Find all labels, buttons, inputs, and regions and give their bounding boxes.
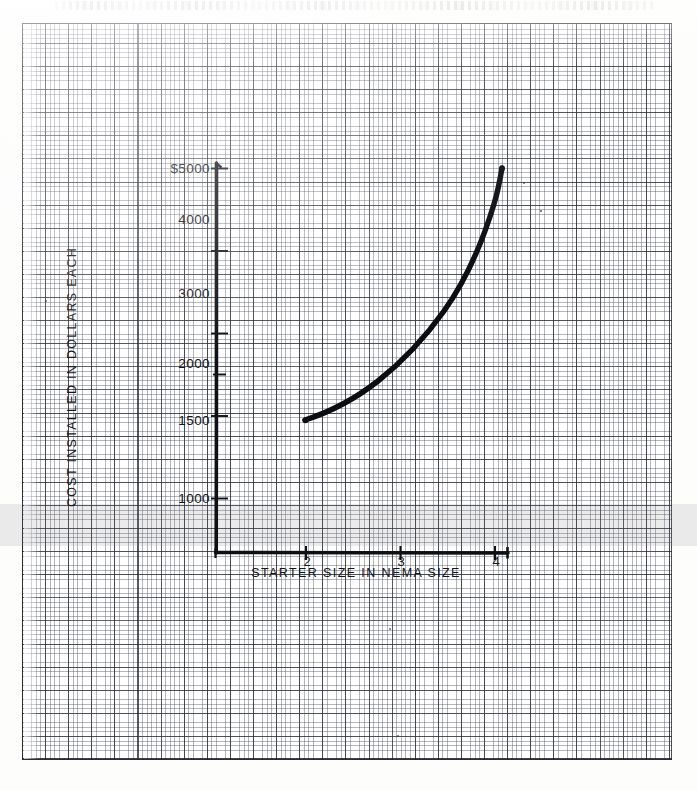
y-tick-label-1000: 1000 bbox=[126, 491, 210, 506]
cost-curve bbox=[305, 168, 502, 420]
chart-plot: $5000 4000 3000 2000 1500 1000 2 3 4 COS… bbox=[0, 0, 697, 791]
x-tick-label-4: 4 bbox=[492, 554, 499, 569]
y-tick-label-5000: $5000 bbox=[126, 161, 210, 176]
y-tick-label-1500: 1500 bbox=[126, 413, 210, 428]
scanned-page: $5000 4000 3000 2000 1500 1000 2 3 4 COS… bbox=[0, 0, 697, 791]
x-axis-line bbox=[216, 553, 509, 554]
chart-svg bbox=[0, 0, 697, 791]
cost-curve-ink-bleed bbox=[306, 169, 503, 421]
ink-speck bbox=[540, 210, 542, 212]
curve-start-blob bbox=[303, 417, 309, 423]
y-tick-label-4000: 4000 bbox=[126, 212, 210, 227]
ink-speck bbox=[45, 300, 47, 302]
x-axis-title: STARTER SIZE IN NEMA SIZE bbox=[251, 566, 461, 580]
curve-end-blob bbox=[499, 166, 505, 172]
ink-speck bbox=[389, 628, 391, 630]
y-axis-title: COST INSTALLED IN DOLLARS EACH bbox=[65, 227, 79, 527]
y-tick-label-3000: 3000 bbox=[126, 286, 210, 301]
y-axis-ticks bbox=[211, 169, 228, 499]
y-tick-label-2000: 2000 bbox=[126, 356, 210, 371]
